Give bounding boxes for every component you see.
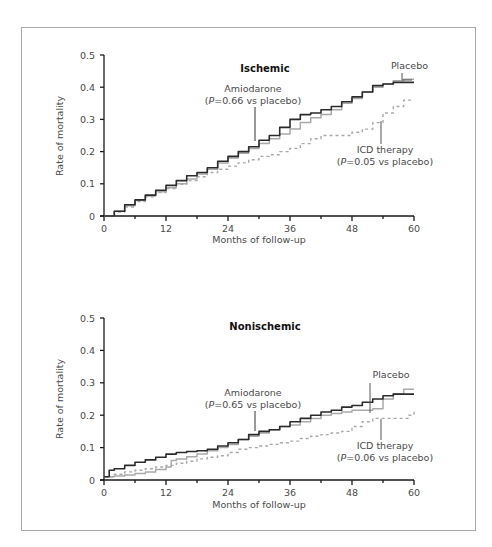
chart-ischemic: Ischemic 00.10.20.30.40.5 01224364860 Mo… (54, 50, 433, 246)
x-tick-label: 36 (284, 487, 296, 498)
x-tick-label: 60 (408, 487, 420, 498)
x-tick-label: 0 (101, 487, 107, 498)
annotation-amiodarone: Amiodarone (P=0.66 vs placebo) (205, 83, 301, 141)
y-tick-label: 0.5 (80, 313, 95, 324)
y-tick-label: 0.4 (80, 82, 95, 93)
y-tick-label: 0 (89, 211, 95, 222)
x-tick-label: 12 (160, 487, 172, 498)
annotation-placebo: Placebo (391, 60, 428, 80)
annotation-icd: ICD therapy (P=0.06 vs placebo) (337, 419, 433, 463)
y-axis: 00.10.20.30.40.5 (80, 313, 104, 486)
y-tick-label: 0.1 (80, 178, 95, 189)
x-tick-label: 48 (346, 223, 358, 234)
x-axis-title: Months of follow-up (212, 499, 305, 510)
x-tick-label: 48 (346, 487, 358, 498)
x-tick-label: 24 (222, 487, 234, 498)
svg-text:Amiodarone: Amiodarone (224, 83, 282, 94)
svg-text:(P=0.66 vs placebo): (P=0.66 vs placebo) (205, 95, 301, 106)
chart-nonischemic: Nonischemic 00.10.20.30.40.5 01224364860… (54, 313, 433, 511)
y-axis-title: Rate of mortality (54, 96, 65, 177)
y-tick-label: 0.4 (80, 345, 95, 356)
x-tick-label: 24 (222, 223, 234, 234)
svg-text:ICD therapy: ICD therapy (357, 144, 414, 155)
y-axis-title: Rate of mortality (54, 359, 65, 440)
y-tick-label: 0.3 (80, 114, 95, 125)
svg-text:(P=0.65 vs placebo): (P=0.65 vs placebo) (205, 399, 301, 410)
mortality-charts: Ischemic 00.10.20.30.40.5 01224364860 Mo… (0, 0, 492, 547)
y-tick-label: 0.2 (80, 146, 95, 157)
y-tick-label: 0.2 (80, 410, 95, 421)
svg-text:(P=0.06 vs placebo): (P=0.06 vs placebo) (337, 452, 433, 463)
x-axis: 01224364860 (100, 480, 420, 498)
panel-title: Nonischemic (229, 321, 300, 332)
y-tick-label: 0.1 (80, 442, 95, 453)
x-axis: 01224364860 (100, 216, 420, 234)
annotation-icd: ICD therapy (P=0.05 vs placebo) (337, 121, 433, 167)
y-axis: 00.10.20.30.40.5 (80, 50, 104, 222)
y-tick-label: 0.3 (80, 377, 95, 388)
svg-text:(P=0.05 vs placebo): (P=0.05 vs placebo) (337, 156, 433, 167)
x-axis-title: Months of follow-up (212, 234, 305, 245)
svg-text:ICD therapy: ICD therapy (357, 440, 414, 451)
x-tick-label: 60 (408, 223, 420, 234)
x-tick-label: 0 (101, 223, 107, 234)
svg-text:Amiodarone: Amiodarone (224, 387, 282, 398)
y-tick-label: 0.5 (80, 50, 95, 61)
svg-text:Placebo: Placebo (372, 369, 409, 380)
x-tick-label: 36 (284, 223, 296, 234)
x-tick-label: 12 (160, 223, 172, 234)
panel-title: Ischemic (240, 63, 289, 74)
svg-text:Placebo: Placebo (391, 60, 428, 71)
annotation-amiodarone: Amiodarone (P=0.65 vs placebo) (205, 387, 301, 431)
y-tick-label: 0 (89, 475, 95, 486)
